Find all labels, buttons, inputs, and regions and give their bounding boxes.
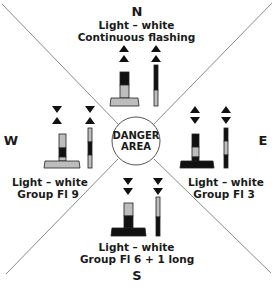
- west-cone-icon: [52, 117, 62, 124]
- south-cone-icon: [123, 178, 133, 185]
- west-pattern-text: Group Fl 9: [12, 188, 84, 200]
- west-light-text: Light – white: [12, 176, 84, 188]
- east-pattern-text: Group Fl 3: [188, 188, 260, 200]
- east-light-text: Light – white: [188, 176, 260, 188]
- north-light-text: Light – white: [76, 19, 197, 31]
- south-light-text: Light – white: [80, 241, 193, 253]
- direction-south: S: [130, 268, 144, 283]
- south-cone-icon: [123, 188, 133, 195]
- south-description: Light – white Group Fl 6 + 1 long: [80, 241, 193, 265]
- danger-area-line1: DANGER: [112, 130, 160, 141]
- direction-north: N: [128, 4, 146, 19]
- north-pattern-text: Continuous flashing: [76, 31, 197, 43]
- east-description: Light – white Group Fl 3: [188, 176, 260, 200]
- direction-east: E: [256, 133, 270, 148]
- east-cone-icon: [190, 106, 200, 113]
- west-mark: [44, 106, 95, 168]
- west-description: Light – white Group Fl 9: [12, 176, 84, 200]
- direction-west: W: [3, 133, 19, 148]
- danger-area-line2: AREA: [112, 141, 160, 152]
- east-cone-icon: [190, 117, 200, 124]
- west-cone-icon: [52, 106, 62, 113]
- north-description: Light – white Continuous flashing: [76, 19, 197, 43]
- north-mark: [110, 45, 161, 106]
- cardinal-marks-diagram: DANGER AREA N Light – white Continuous f…: [0, 0, 273, 289]
- south-pattern-text: Group Fl 6 + 1 long: [80, 253, 193, 265]
- north-cone-icon: [119, 55, 129, 62]
- east-mark: [180, 106, 231, 168]
- north-cone-icon: [119, 45, 129, 52]
- south-mark: [111, 178, 163, 236]
- danger-area-label: DANGER AREA: [112, 130, 160, 152]
